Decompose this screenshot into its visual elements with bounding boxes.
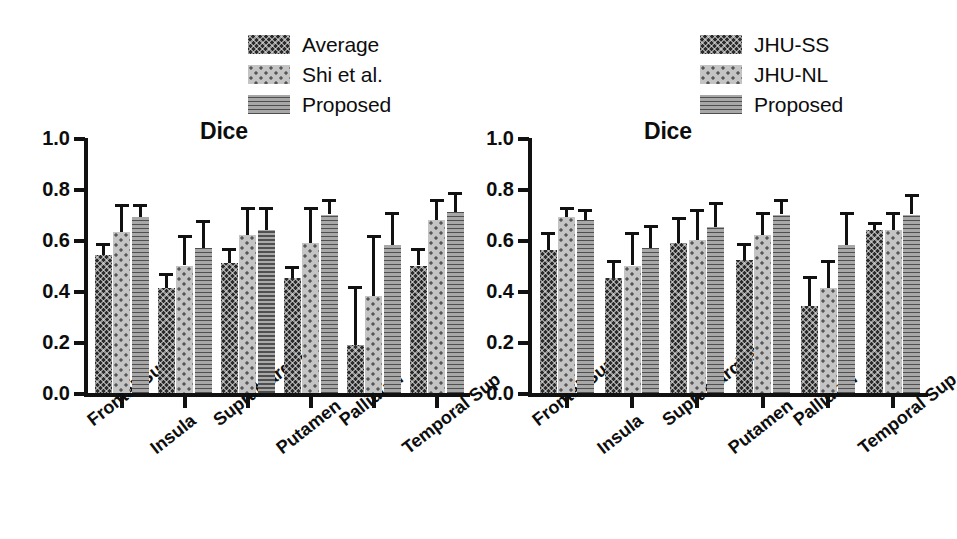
bar[interactable] (624, 266, 641, 394)
error-bar-stem (246, 207, 249, 235)
error-bar-stem (910, 194, 913, 214)
error-bar-cap (115, 204, 129, 207)
chart-legend: AverageShi et al.Proposed (248, 34, 391, 115)
error-bar-cap (625, 232, 639, 235)
legend-label: Proposed (754, 94, 843, 115)
bar[interactable] (736, 260, 753, 393)
bar[interactable] (221, 263, 238, 393)
error-bar-stem (120, 204, 123, 232)
chart-title: Dice (200, 118, 248, 145)
error-bar-cap (607, 260, 621, 263)
bar[interactable] (302, 243, 319, 393)
y-tick-mark (74, 392, 85, 396)
bar[interactable] (95, 255, 112, 393)
y-tick-mark (518, 290, 529, 294)
bar[interactable] (670, 243, 687, 393)
x-category-label: Insula (594, 411, 646, 457)
bar[interactable] (347, 345, 364, 393)
bar[interactable] (558, 217, 575, 393)
y-tick-label: 0.4 (462, 281, 514, 301)
error-bar-cap (241, 207, 255, 210)
legend-item[interactable]: Average (248, 34, 391, 55)
y-tick-mark (518, 341, 529, 345)
y-tick-mark (74, 290, 85, 294)
legend-swatch-icon (700, 35, 742, 54)
bar[interactable] (689, 240, 706, 393)
error-bar-cap (96, 243, 110, 246)
bar[interactable] (195, 248, 212, 393)
bar[interactable] (642, 248, 659, 393)
bar[interactable] (428, 220, 445, 393)
error-bar-cap (348, 286, 362, 289)
legend-item[interactable]: JHU-NL (700, 64, 843, 85)
error-bar-cap (840, 212, 854, 215)
bar[interactable] (158, 288, 175, 393)
bar[interactable] (820, 288, 837, 393)
x-tick-mark (761, 397, 765, 408)
error-bar-cap (644, 225, 658, 228)
legend-item[interactable]: Proposed (248, 94, 391, 115)
bar[interactable] (866, 230, 883, 393)
bar[interactable] (113, 232, 130, 393)
y-tick-mark (74, 341, 85, 345)
error-bar-stem (677, 217, 680, 243)
error-bar-stem (391, 212, 394, 245)
bar[interactable] (605, 278, 622, 393)
error-bar-stem (454, 192, 457, 212)
error-bar-stem (845, 212, 848, 245)
x-tick-mark (435, 397, 439, 408)
bar[interactable] (773, 215, 790, 394)
bar[interactable] (384, 245, 401, 393)
y-axis-line (84, 138, 88, 397)
legend-item[interactable]: Shi et al. (248, 64, 391, 85)
error-bar-cap (905, 194, 919, 197)
bar[interactable] (447, 212, 464, 393)
y-tick-label: 0.0 (462, 383, 514, 403)
error-bar-cap (259, 207, 273, 210)
bar[interactable] (258, 230, 275, 393)
bar[interactable] (410, 266, 427, 394)
bar[interactable] (577, 220, 594, 393)
bar[interactable] (321, 215, 338, 394)
error-bar-stem (649, 225, 652, 248)
error-bar-cap (385, 212, 399, 215)
bar[interactable] (239, 235, 256, 393)
error-bar-cap (196, 220, 210, 223)
legend-label: Average (302, 34, 379, 55)
bar[interactable] (176, 266, 193, 394)
bar[interactable] (801, 306, 818, 393)
bar[interactable] (754, 235, 771, 393)
error-bar-cap (304, 207, 318, 210)
error-bar-stem (183, 235, 186, 266)
legend-item[interactable]: JHU-SS (700, 34, 843, 55)
y-tick-label: 1.0 (18, 128, 70, 148)
error-bar-cap (578, 209, 592, 212)
bar[interactable] (903, 215, 920, 394)
bar[interactable] (284, 278, 301, 393)
y-tick-label: 0.8 (18, 179, 70, 199)
error-bar-cap (159, 273, 173, 276)
error-bar-cap (709, 202, 723, 205)
bar[interactable] (838, 245, 855, 393)
bar[interactable] (540, 250, 557, 393)
y-tick-label: 0.8 (462, 179, 514, 199)
bar[interactable] (365, 296, 382, 393)
error-bar-cap (690, 209, 704, 212)
legend-label: JHU-SS (754, 34, 829, 55)
y-tick-label: 0.6 (18, 230, 70, 250)
legend-label: JHU-NL (754, 64, 828, 85)
error-bar-cap (367, 235, 381, 238)
error-bar-stem (808, 276, 811, 307)
error-bar-cap (322, 199, 336, 202)
error-bar-cap (541, 232, 555, 235)
y-tick-mark (518, 392, 529, 396)
x-tick-mark (309, 397, 313, 408)
y-tick-label: 0.4 (18, 281, 70, 301)
error-bar-stem (696, 209, 699, 240)
error-bar-stem (202, 220, 205, 248)
legend-item[interactable]: Proposed (700, 94, 843, 115)
bar[interactable] (885, 230, 902, 393)
error-bar-stem (631, 232, 634, 265)
bar[interactable] (132, 217, 149, 393)
bar[interactable] (707, 227, 724, 393)
